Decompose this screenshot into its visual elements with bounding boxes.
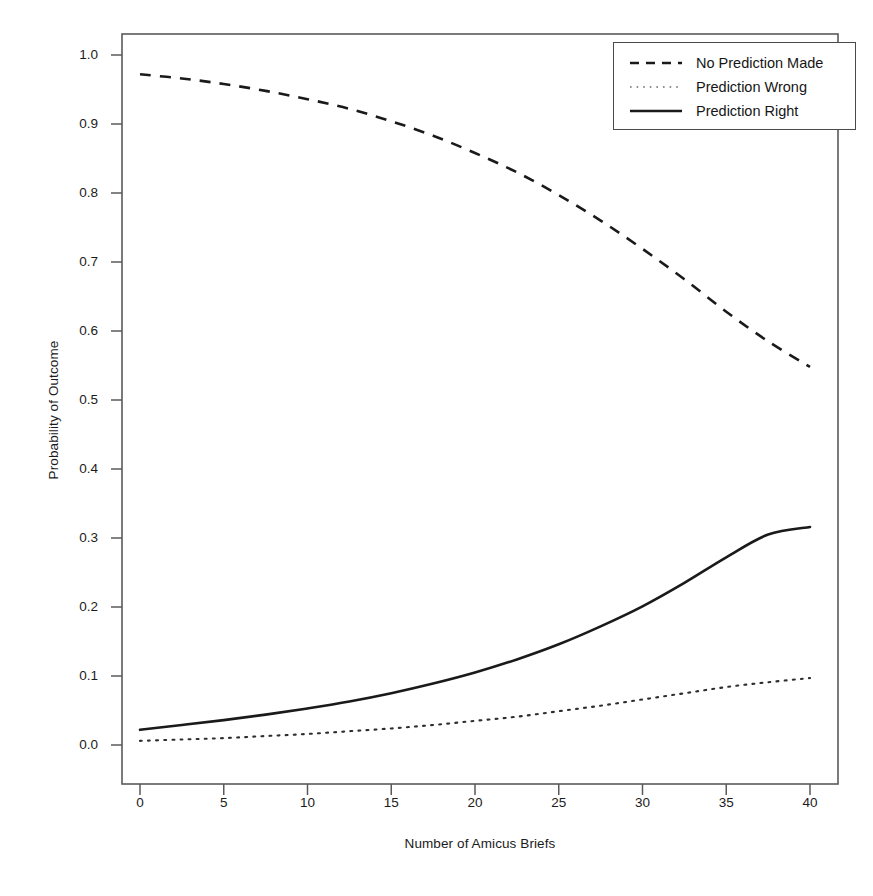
legend-key-dashed-icon [628, 51, 684, 75]
legend-entry-prediction-right: Prediction Right [614, 99, 855, 123]
series-layer [140, 74, 810, 741]
chart-legend: No Prediction Made Prediction Wrong Pred… [613, 42, 856, 130]
legend-entry-no-prediction-made: No Prediction Made [614, 51, 855, 75]
x-tick-label: 5 [204, 796, 244, 810]
y-tick-label: 0.3 [56, 531, 98, 545]
y-axis-title: Probability of Outcome [46, 300, 66, 520]
y-tick-label: 1.0 [56, 48, 98, 62]
legend-key-solid-icon [628, 99, 684, 123]
x-tick-label: 10 [288, 796, 328, 810]
x-tick-label: 20 [455, 796, 495, 810]
x-tick-label: 0 [120, 796, 160, 810]
x-tick-label: 35 [706, 796, 746, 810]
y-tick-label: 0.8 [56, 186, 98, 200]
y-tick-label: 0.9 [56, 117, 98, 131]
y-tick-label: 0.7 [56, 255, 98, 269]
legend-entry-prediction-wrong: Prediction Wrong [614, 75, 855, 99]
y-tick-label: 0.0 [56, 738, 98, 752]
x-axis-tick-marks [140, 784, 810, 795]
y-tick-label: 0.2 [56, 600, 98, 614]
amicus-briefs-probability-chart: 0.00.10.20.30.40.50.60.70.80.91.0 051015… [0, 0, 873, 896]
x-axis-title: Number of Amicus Briefs [122, 836, 838, 851]
x-tick-label: 40 [790, 796, 830, 810]
series-line-prediction-wrong [140, 678, 810, 741]
y-tick-label: 0.1 [56, 669, 98, 683]
x-tick-label: 15 [371, 796, 411, 810]
legend-key-dotted-icon [628, 75, 684, 99]
plot-canvas [0, 0, 873, 896]
y-axis-tick-marks [111, 55, 122, 745]
legend-label: Prediction Wrong [696, 77, 807, 97]
legend-label: Prediction Right [696, 101, 798, 121]
x-tick-label: 25 [539, 796, 579, 810]
x-tick-label: 30 [623, 796, 663, 810]
legend-label: No Prediction Made [696, 53, 823, 73]
series-line-prediction-right [140, 527, 810, 730]
